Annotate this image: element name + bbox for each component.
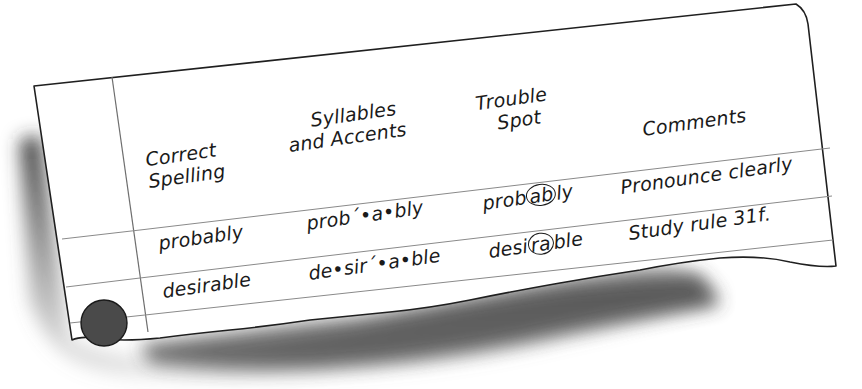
trouble-spot-circle: ra <box>526 231 555 256</box>
binder-hole <box>81 300 127 346</box>
paper-sheet <box>0 0 862 389</box>
notebook-sheet-illustration: Correct Spelling Syllables and Accents T… <box>0 0 862 389</box>
trouble-spot-circle: ab <box>525 182 558 208</box>
